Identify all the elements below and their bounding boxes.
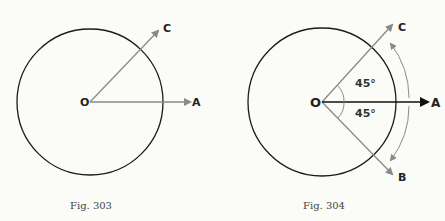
angle-arc-upper bbox=[338, 86, 344, 102]
rotation-arc-down bbox=[391, 106, 409, 160]
figure-caption: Fig. 304 bbox=[303, 200, 345, 211]
angle-label-upper: 45° bbox=[355, 77, 376, 90]
label-o: O bbox=[80, 96, 89, 109]
angle-arc-lower bbox=[338, 102, 344, 118]
angle-label-lower: 45° bbox=[355, 107, 376, 120]
label-o: O bbox=[310, 95, 321, 110]
label-a: A bbox=[431, 96, 441, 110]
figure-303: O A C Fig. 303 bbox=[17, 22, 201, 211]
label-c: C bbox=[398, 21, 406, 34]
label-b: B bbox=[398, 171, 406, 184]
label-a: A bbox=[192, 96, 201, 109]
diagram-canvas: O A C Fig. 303 O A C B 45° 45° Fig. 304 bbox=[0, 0, 445, 221]
rotation-arc-up bbox=[391, 44, 409, 98]
figure-caption: Fig. 303 bbox=[70, 200, 112, 211]
vector-oc bbox=[90, 31, 158, 102]
figure-304: O A C B 45° 45° Fig. 304 bbox=[248, 21, 441, 211]
label-c: C bbox=[163, 22, 171, 35]
